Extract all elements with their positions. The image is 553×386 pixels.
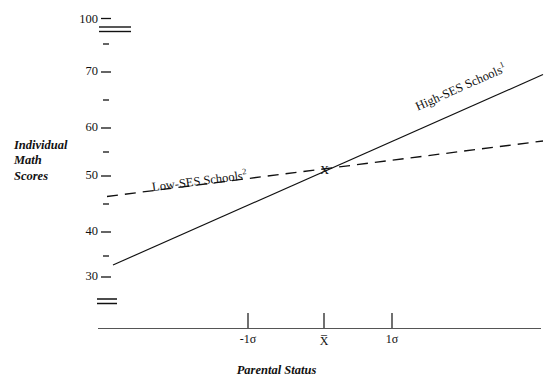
crossing-point-marker: X [320, 164, 329, 177]
x-axis-title: Parental Status [0, 364, 553, 377]
x-tick-mean-letter: X [320, 334, 329, 348]
y-tick-label-100: 100 [68, 13, 98, 26]
y-axis-title-line-3: Scores [14, 169, 68, 184]
y-axis-break-bottom [97, 299, 117, 304]
x-tick-label-mean: – X [304, 331, 344, 346]
y-axis-title: Individual Math Scores [14, 138, 68, 184]
chart-canvas [0, 0, 553, 386]
y-axis-title-line-1: Individual [14, 138, 68, 153]
y-tick-label-30: 30 [68, 270, 98, 283]
y-axis-ticks [101, 19, 111, 278]
y-axis-break-top [99, 27, 131, 32]
x-tick-label-plus-1-sigma: 1σ [372, 333, 412, 345]
y-tick-label-60: 60 [68, 121, 98, 134]
y-tick-label-50: 50 [68, 169, 98, 182]
chart-figure: 100 70 60 50 40 30 Individual Math Score… [0, 0, 553, 386]
y-tick-label-70: 70 [68, 65, 98, 78]
x-axis-ticks [248, 313, 392, 328]
y-tick-label-40: 40 [68, 225, 98, 238]
y-axis-title-line-2: Math [14, 153, 68, 168]
x-tick-label-minus-1-sigma: -1σ [228, 333, 268, 345]
